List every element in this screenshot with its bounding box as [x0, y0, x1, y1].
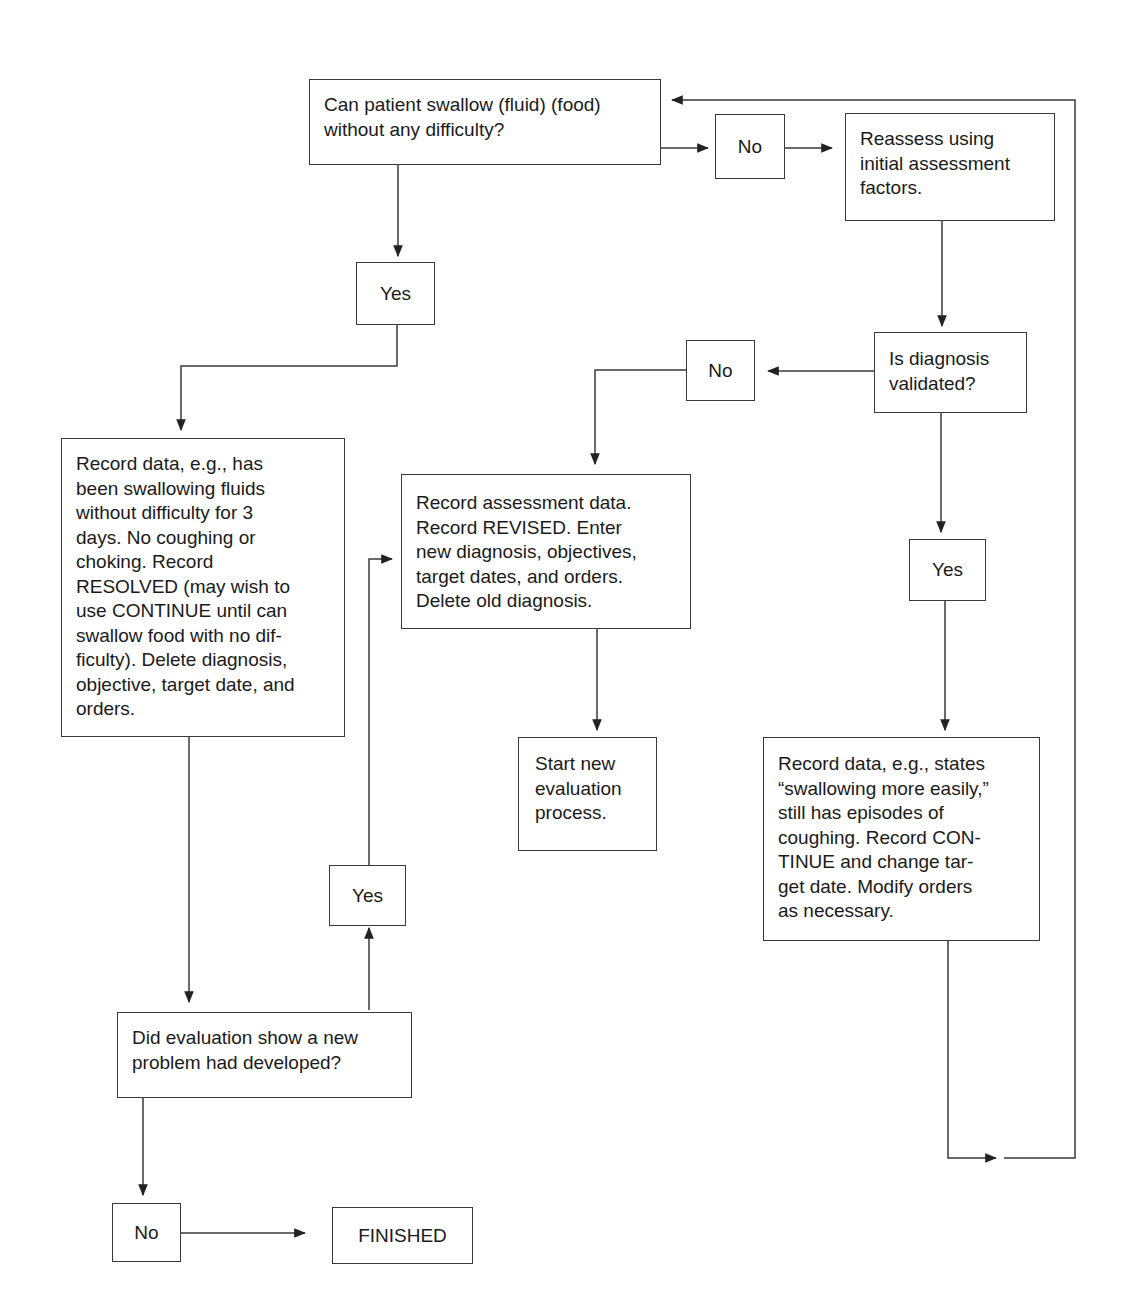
- question-diagnosis-validated: Is diagnosis validated?: [874, 332, 1027, 413]
- record-continue-box: Record data, e.g., states “swallowing mo…: [763, 737, 1040, 941]
- start-new-evaluation-box: Start new evaluation process.: [518, 737, 657, 851]
- question-can-patient-swallow: Can patient swallow (fluid) (food) witho…: [309, 79, 661, 165]
- decision-no-validated: No: [686, 340, 755, 401]
- decision-no-swallow: No: [715, 114, 785, 179]
- decision-no-new-problem: No: [112, 1203, 181, 1262]
- finished-box: FINISHED: [332, 1207, 473, 1264]
- reassess-box: Reassess using initial assessment factor…: [845, 113, 1055, 221]
- decision-yes-new-problem: Yes: [329, 865, 406, 926]
- record-revised-box: Record assessment data. Record REVISED. …: [401, 474, 691, 629]
- decision-yes-swallow: Yes: [356, 262, 435, 325]
- decision-yes-validated: Yes: [909, 539, 986, 601]
- record-resolved-box: Record data, e.g., has been swallowing f…: [61, 438, 345, 737]
- question-new-problem: Did evaluation show a new problem had de…: [117, 1012, 412, 1098]
